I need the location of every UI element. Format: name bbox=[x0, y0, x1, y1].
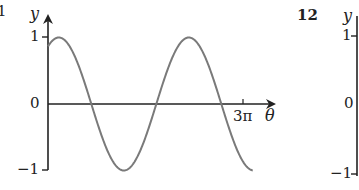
right-ytick-label-1: 1 bbox=[342, 28, 352, 43]
xtick-label-3pi: 3π bbox=[233, 109, 252, 124]
y-axis-label: y bbox=[30, 6, 39, 22]
ytick-label-neg1: −1 bbox=[17, 162, 39, 177]
ytick-label-0: 0 bbox=[30, 96, 40, 111]
x-axis-label: θ bbox=[265, 108, 275, 124]
right-ytick-label-neg1: −1 bbox=[330, 166, 352, 181]
question-number-fragment: 1 bbox=[0, 4, 7, 19]
graph-canvas bbox=[0, 0, 359, 190]
ytick-label-1: 1 bbox=[30, 29, 40, 44]
right-y-axis-label: y bbox=[343, 8, 352, 24]
right-ytick-label-0: 0 bbox=[344, 96, 354, 111]
question-number: 12 bbox=[297, 8, 318, 23]
